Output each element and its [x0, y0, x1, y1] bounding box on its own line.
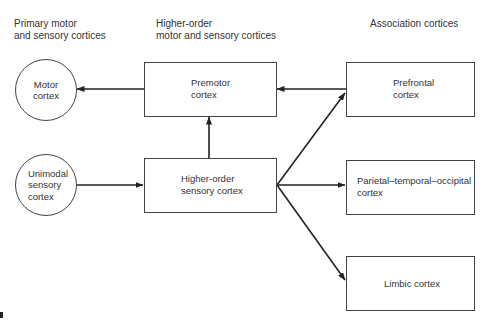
node-premotor-line-1: Premotor — [191, 77, 230, 89]
node-motor-line-2: cortex — [33, 90, 59, 102]
node-motor-line-1: Motor — [33, 79, 59, 91]
node-parietal-line-2: cortex — [357, 187, 471, 199]
node-unimodal-label: Unimodal sensory cortex — [28, 168, 68, 203]
corner-mark — [0, 312, 3, 318]
node-parietal-label: Parietal–temporal–occipital cortex — [357, 175, 471, 198]
node-higher-order-sensory-cortex: Higher-order sensory cortex — [144, 158, 277, 213]
node-premotor-cortex: Premotor cortex — [144, 62, 277, 117]
node-limbic-cortex: Limbic cortex — [346, 256, 475, 311]
node-unimodal-line-3: cortex — [28, 191, 68, 203]
node-unimodal-sensory-cortex: Unimodal sensory cortex — [15, 154, 77, 216]
node-prefrontal-line-2: cortex — [393, 89, 434, 101]
node-limbic-line-1: Limbic cortex — [384, 278, 440, 290]
node-higher-sensory-line-2: sensory cortex — [181, 185, 243, 197]
node-prefrontal-cortex: Prefrontal cortex — [346, 62, 475, 117]
arrow-higher-sensory-to-limbic — [277, 185, 345, 280]
node-parietal-temporal-occipital-cortex: Parietal–temporal–occipital cortex — [346, 160, 475, 215]
node-premotor-label: Premotor cortex — [191, 77, 230, 100]
node-unimodal-line-2: sensory — [28, 179, 68, 191]
node-higher-sensory-line-1: Higher-order — [181, 173, 243, 185]
node-higher-sensory-label: Higher-order sensory cortex — [181, 173, 243, 196]
node-motor-label: Motor cortex — [33, 79, 59, 102]
arrow-higher-sensory-to-prefrontal — [277, 93, 345, 185]
node-motor-cortex: Motor cortex — [15, 59, 77, 121]
node-prefrontal-label: Prefrontal cortex — [393, 77, 434, 100]
node-unimodal-line-1: Unimodal — [28, 168, 68, 180]
node-parietal-line-1: Parietal–temporal–occipital — [357, 175, 471, 187]
node-prefrontal-line-1: Prefrontal — [393, 77, 434, 89]
node-limbic-label: Limbic cortex — [384, 278, 440, 290]
node-premotor-line-2: cortex — [191, 89, 230, 101]
